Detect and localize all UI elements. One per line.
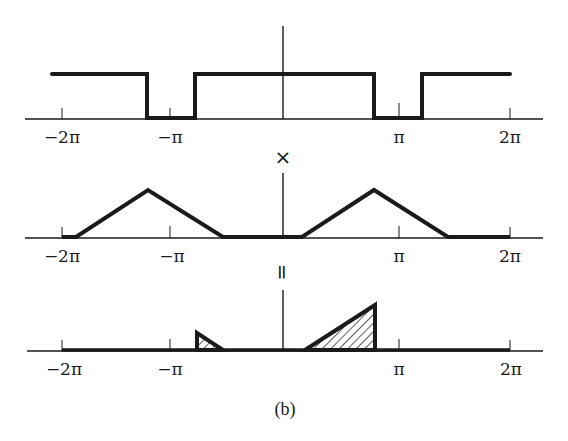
tick-label-neg-2pi: −2π — [46, 359, 82, 379]
multiply-operator: × — [275, 145, 292, 169]
triangular-spectrum-curve — [62, 190, 510, 237]
panel-rectangular-window: −2π −π π 2π — [25, 26, 543, 147]
figure-caption: (b) — [275, 399, 296, 420]
equals-operator: = — [271, 264, 295, 281]
tick-label-neg-pi: −π — [157, 127, 182, 147]
hatched-right-piece — [305, 305, 375, 350]
tick-label-pi: π — [393, 246, 404, 266]
tick-label-neg-2pi: −2π — [44, 127, 80, 147]
tick-label-neg-pi: −π — [157, 359, 182, 379]
figure-canvas: −2π −π π 2π × −2π −π π 2π = — [0, 0, 568, 441]
rectangular-response-curve — [52, 74, 510, 118]
tick-label-2pi: 2π — [499, 246, 521, 266]
tick-label-2pi: 2π — [500, 359, 522, 379]
panel-product-spectrum: −2π −π π 2π — [27, 290, 543, 379]
tick-label-neg-pi: −π — [159, 246, 184, 266]
tick-label-neg-2pi: −2π — [44, 246, 80, 266]
hatched-left-piece — [197, 333, 223, 350]
tick-label-pi: π — [393, 359, 404, 379]
tick-label-pi: π — [393, 127, 404, 147]
tick-marks — [62, 103, 510, 119]
tick-label-2pi: 2π — [499, 127, 521, 147]
panel-triangular-spectrum: −2π −π π 2π — [25, 173, 543, 266]
svg-text:=: = — [271, 264, 295, 281]
